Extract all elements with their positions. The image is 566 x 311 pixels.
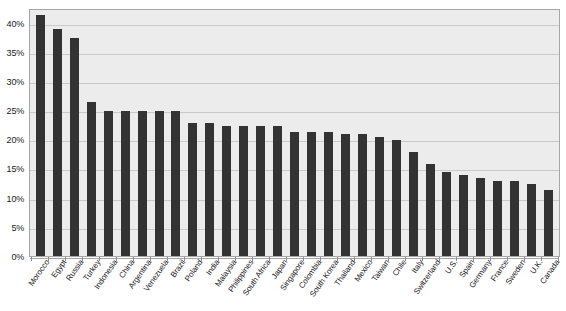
bar-slot bbox=[66, 10, 83, 256]
x-tick bbox=[235, 257, 236, 261]
bar-slot bbox=[134, 10, 151, 256]
x-tick bbox=[116, 257, 117, 261]
bar[interactable] bbox=[36, 15, 45, 256]
plot-area bbox=[29, 9, 560, 257]
bar[interactable] bbox=[510, 181, 519, 256]
bar-slot bbox=[405, 10, 422, 256]
bar-slot bbox=[218, 10, 235, 256]
bar[interactable] bbox=[375, 137, 384, 256]
x-tick bbox=[405, 257, 406, 261]
bar-slot bbox=[252, 10, 269, 256]
bar[interactable] bbox=[121, 111, 130, 256]
bar-slot bbox=[151, 10, 168, 256]
x-tick bbox=[507, 257, 508, 261]
bar-slot bbox=[184, 10, 201, 256]
x-tick bbox=[422, 257, 423, 261]
bar[interactable] bbox=[53, 29, 62, 256]
x-tick bbox=[320, 257, 321, 261]
bar-slot bbox=[388, 10, 405, 256]
bar[interactable] bbox=[358, 134, 367, 256]
x-tick bbox=[201, 257, 202, 261]
bar-slot bbox=[235, 10, 252, 256]
bar-series bbox=[30, 10, 559, 256]
x-tick bbox=[48, 257, 49, 261]
x-tick bbox=[133, 257, 134, 261]
x-tick bbox=[218, 257, 219, 261]
bar-slot bbox=[506, 10, 523, 256]
x-tick bbox=[269, 257, 270, 261]
bar[interactable] bbox=[341, 134, 350, 256]
x-tick bbox=[184, 257, 185, 261]
y-tick-label: 40% bbox=[7, 19, 24, 29]
x-tick bbox=[150, 257, 151, 261]
bar[interactable] bbox=[544, 190, 553, 256]
bar[interactable] bbox=[324, 132, 333, 256]
bar-slot bbox=[472, 10, 489, 256]
bar[interactable] bbox=[476, 178, 485, 256]
bar[interactable] bbox=[70, 38, 79, 256]
x-tick bbox=[473, 257, 474, 261]
bar-slot bbox=[540, 10, 557, 256]
bar[interactable] bbox=[493, 181, 502, 256]
x-tick bbox=[490, 257, 491, 261]
bar-slot bbox=[49, 10, 66, 256]
bar-slot bbox=[269, 10, 286, 256]
y-axis: 0%5%10%15%20%25%30%35%40% bbox=[0, 9, 27, 257]
bar[interactable] bbox=[205, 123, 214, 256]
x-axis: MoroccoEgyptRussiaTurkeyIndonesiaChinaAr… bbox=[29, 258, 560, 311]
y-tick-label: 10% bbox=[7, 194, 24, 204]
bar-slot bbox=[303, 10, 320, 256]
bar-slot bbox=[371, 10, 388, 256]
bar[interactable] bbox=[527, 184, 536, 256]
bar-slot bbox=[523, 10, 540, 256]
bar[interactable] bbox=[290, 132, 299, 256]
y-tick-label: 0% bbox=[11, 252, 24, 262]
x-tick-label: Morocco bbox=[26, 258, 51, 288]
x-tick bbox=[31, 257, 32, 261]
bar-slot bbox=[168, 10, 185, 256]
y-tick-label: 15% bbox=[7, 164, 24, 174]
bar[interactable] bbox=[155, 111, 164, 256]
bar[interactable] bbox=[239, 126, 248, 256]
bar-slot bbox=[32, 10, 49, 256]
bar-slot bbox=[286, 10, 303, 256]
x-tick bbox=[65, 257, 66, 261]
bar-slot bbox=[117, 10, 134, 256]
x-tick bbox=[252, 257, 253, 261]
y-tick-label: 35% bbox=[7, 48, 24, 58]
bar[interactable] bbox=[459, 175, 468, 256]
x-tick bbox=[524, 257, 525, 261]
bar[interactable] bbox=[87, 102, 96, 256]
bar-slot bbox=[320, 10, 337, 256]
x-tick bbox=[371, 257, 372, 261]
bar-slot bbox=[354, 10, 371, 256]
bar-slot bbox=[489, 10, 506, 256]
x-tick bbox=[99, 257, 100, 261]
bar[interactable] bbox=[442, 172, 451, 256]
bar[interactable] bbox=[256, 126, 265, 256]
y-tick-label: 25% bbox=[7, 106, 24, 116]
x-tick bbox=[286, 257, 287, 261]
bar[interactable] bbox=[222, 126, 231, 256]
y-tick-label: 20% bbox=[7, 135, 24, 145]
x-tick bbox=[558, 257, 559, 261]
x-tick bbox=[82, 257, 83, 261]
bar[interactable] bbox=[171, 111, 180, 256]
bar[interactable] bbox=[273, 126, 282, 256]
bar[interactable] bbox=[138, 111, 147, 256]
x-tick bbox=[541, 257, 542, 261]
bar[interactable] bbox=[426, 164, 435, 256]
bar[interactable] bbox=[104, 111, 113, 256]
bar[interactable] bbox=[307, 132, 316, 256]
bar-slot bbox=[83, 10, 100, 256]
x-tick bbox=[167, 257, 168, 261]
bar-slot bbox=[337, 10, 354, 256]
bar-slot bbox=[439, 10, 456, 256]
x-tick bbox=[439, 257, 440, 261]
bar[interactable] bbox=[188, 123, 197, 256]
bar[interactable] bbox=[409, 152, 418, 256]
bar-slot bbox=[100, 10, 117, 256]
bar-chart: 0%5%10%15%20%25%30%35%40% MoroccoEgyptRu… bbox=[0, 0, 566, 311]
bar[interactable] bbox=[392, 140, 401, 256]
y-tick-label: 30% bbox=[7, 77, 24, 87]
